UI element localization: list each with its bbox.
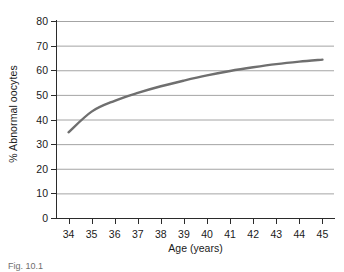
x-tick-label: 43 [264,228,288,240]
x-axis-line [56,218,335,219]
x-tick-mark [115,219,116,224]
x-tick-mark [230,219,231,224]
y-tick-mark [51,46,57,47]
y-tick-mark [51,21,57,22]
y-tick-mark [51,144,57,145]
x-tick-mark [161,219,162,224]
x-tick-mark [299,219,300,224]
y-tick-label: 0 [26,213,48,223]
x-tick-mark [276,219,277,224]
x-tick-label: 38 [149,228,173,240]
y-tick-mark [51,193,57,194]
y-axis-title-label: % Abnormal oocytes [7,65,19,163]
y-tick-mark [51,120,57,121]
x-tick-mark [69,219,70,224]
y-tick-mark [51,169,57,170]
y-tick-label: 30 [26,139,48,149]
x-tick-label: 40 [195,228,219,240]
x-tick-label: 39 [172,228,196,240]
y-axis-title: % Abnormal oocytes [0,0,26,228]
y-tick-label: 60 [26,65,48,75]
gridlines [57,22,334,219]
y-tick-label: 70 [26,41,48,51]
x-tick-label: 44 [287,228,311,240]
x-tick-label: 37 [126,228,150,240]
x-tick-mark [92,219,93,224]
x-tick-label: 41 [218,228,242,240]
plot-svg [57,21,334,218]
x-axis-title: Age (years) [57,242,334,254]
x-tick-mark [253,219,254,224]
x-tick-mark [207,219,208,224]
x-tick-label: 42 [241,228,265,240]
x-tick-label-group: 343536373839404142434445 [0,228,344,242]
x-tick-label: 36 [103,228,127,240]
x-axis-title-label: Age (years) [168,242,222,254]
x-tick-mark [138,219,139,224]
y-tick-label: 40 [26,115,48,125]
y-tick-mark [51,95,57,96]
y-tick-label: 10 [26,188,48,198]
x-tick-mark [184,219,185,224]
x-tick-label: 35 [80,228,104,240]
y-tick-label: 50 [26,90,48,100]
y-tick-label: 80 [26,16,48,26]
y-tick-label: 20 [26,164,48,174]
x-tick-label: 34 [57,228,81,240]
figure-caption: Fig. 10.1 [8,261,338,272]
x-tick-mark [322,219,323,224]
y-tick-mark [51,218,57,219]
y-tick-mark [51,70,57,71]
plot-area [57,21,334,218]
x-tick-label: 45 [310,228,334,240]
